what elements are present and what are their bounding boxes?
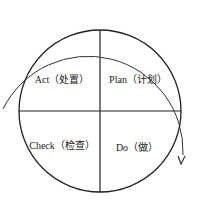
arrowhead-icon [178,156,185,164]
quadrant-do-label: Do（做） [116,139,158,154]
pdca-diagram [0,0,202,207]
quadrant-check-label: Check（检查） [29,137,95,152]
quadrant-plan-label: Plan（计划） [109,71,167,86]
quadrant-act-label: Act（处置） [35,71,89,86]
